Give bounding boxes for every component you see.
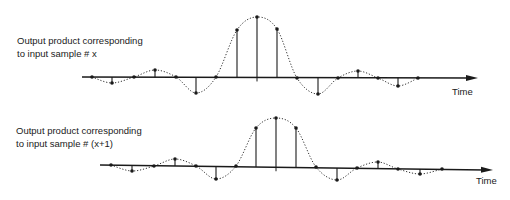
sample-dot (275, 27, 279, 31)
sample-dot (152, 164, 156, 168)
sample-dot (440, 167, 444, 171)
sample-dot (416, 76, 420, 80)
label-line-2: to input sample # (x+1) (16, 138, 142, 151)
sample-dot (130, 169, 134, 173)
sample-dot (355, 166, 359, 170)
label-line-1: Output product corresponding (16, 125, 142, 138)
sample-dot (234, 164, 238, 168)
sample-dot (110, 81, 114, 85)
sinc-diagram (0, 0, 510, 200)
sample-dot (335, 178, 339, 182)
sample-dot (254, 126, 258, 130)
sample-dot (109, 163, 113, 167)
sample-dot (294, 126, 298, 130)
sample-dot (295, 76, 299, 80)
sample-dot (153, 68, 157, 72)
sample-dot (214, 177, 218, 181)
sample-dot (132, 75, 136, 79)
sample-dot (314, 165, 318, 169)
sample-dot (376, 76, 380, 80)
sample-dot (356, 69, 360, 73)
sample-dot (194, 164, 198, 168)
sample-dot (274, 116, 278, 120)
sample-dot (173, 157, 177, 161)
sample-dot (194, 91, 198, 95)
sample-dot (396, 167, 400, 171)
sample-dot (316, 92, 320, 96)
plot-label-sample-x-plus-1: Output product corresponding to input sa… (16, 125, 142, 150)
sample-dot (376, 160, 380, 164)
time-axis (100, 165, 485, 170)
plot-label-sample-x: Output product corresponding to input sa… (17, 35, 143, 60)
sample-dot (174, 75, 178, 79)
time-axis-label: Time (452, 86, 473, 97)
time-axis (82, 77, 470, 78)
sample-dot (336, 76, 340, 80)
sample-dot (396, 84, 400, 88)
label-line-2: to input sample # x (17, 48, 143, 61)
sample-dot (214, 75, 218, 79)
plot-sample-x-plus-1 (100, 116, 493, 182)
sample-dot (235, 28, 239, 32)
sample-dot (255, 15, 259, 19)
arrow-head-icon (481, 167, 493, 173)
arrow-head-icon (466, 75, 478, 81)
time-axis-label: Time (476, 175, 497, 186)
sample-dot (90, 75, 94, 79)
label-line-1: Output product corresponding (17, 35, 143, 48)
sample-dot (418, 172, 422, 176)
